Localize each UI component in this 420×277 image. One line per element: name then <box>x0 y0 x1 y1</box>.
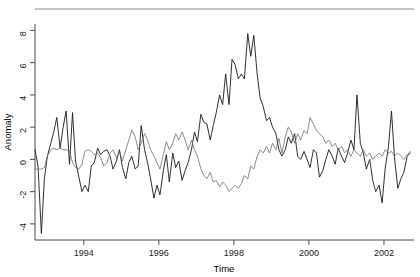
y-tick-label: 4 <box>18 96 28 101</box>
x-tick-label: 2002 <box>374 248 394 258</box>
y-axis-ticks: -4-202468 <box>18 30 35 231</box>
y-tick-label: 2 <box>18 128 28 133</box>
x-axis-title: Time <box>214 263 235 274</box>
series-line-series-light <box>35 117 410 191</box>
y-axis-title: Anomaly <box>2 113 13 150</box>
y-tick-label: -2 <box>18 191 28 199</box>
x-axis-ticks: 19941996199820002002 <box>74 240 394 258</box>
y-tick-label: 8 <box>18 31 28 36</box>
x-tick-label: 1998 <box>224 248 244 258</box>
chart-canvas: -4-202468 19941996199820002002 Time Anom… <box>0 0 420 277</box>
anomaly-time-series-chart: -4-202468 19941996199820002002 Time Anom… <box>0 0 420 277</box>
x-tick-label: 1996 <box>149 248 169 258</box>
series-line-series-dark <box>35 34 410 234</box>
x-tick-label: 2000 <box>299 248 319 258</box>
x-tick-label: 1994 <box>74 248 94 258</box>
y-tick-label: -4 <box>18 223 28 231</box>
y-tick-label: 6 <box>18 63 28 68</box>
series-group <box>35 34 410 234</box>
y-tick-label: 0 <box>18 160 28 165</box>
